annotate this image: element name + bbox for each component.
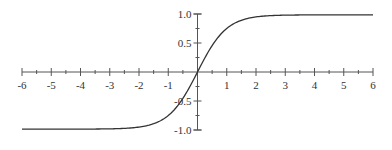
x-tick-label: -2 bbox=[134, 79, 143, 91]
x-tick-label: 4 bbox=[312, 79, 318, 91]
x-tick-label: -3 bbox=[105, 79, 115, 91]
x-tick-label: -6 bbox=[17, 79, 27, 91]
y-tick-label: 1.0 bbox=[178, 8, 192, 20]
y-tick-label: -0.5 bbox=[174, 95, 192, 107]
x-tick-label: 2 bbox=[253, 79, 259, 91]
tanh-chart: -6-5-4-3-2-1123456 1.00.5-0.5-1.0 bbox=[0, 0, 392, 150]
x-axis-ticks: -6-5-4-3-2-1123456 bbox=[17, 68, 376, 91]
y-tick-label: 0.5 bbox=[178, 37, 192, 49]
x-tick-label: 6 bbox=[370, 79, 376, 91]
x-tick-label: -4 bbox=[76, 79, 86, 91]
x-tick-label: -5 bbox=[47, 79, 57, 91]
x-tick-label: 5 bbox=[341, 79, 347, 91]
x-tick-label: -1 bbox=[164, 79, 173, 91]
y-tick-label: -1.0 bbox=[174, 124, 192, 136]
x-tick-label: 1 bbox=[224, 79, 230, 91]
x-tick-label: 3 bbox=[283, 79, 289, 91]
